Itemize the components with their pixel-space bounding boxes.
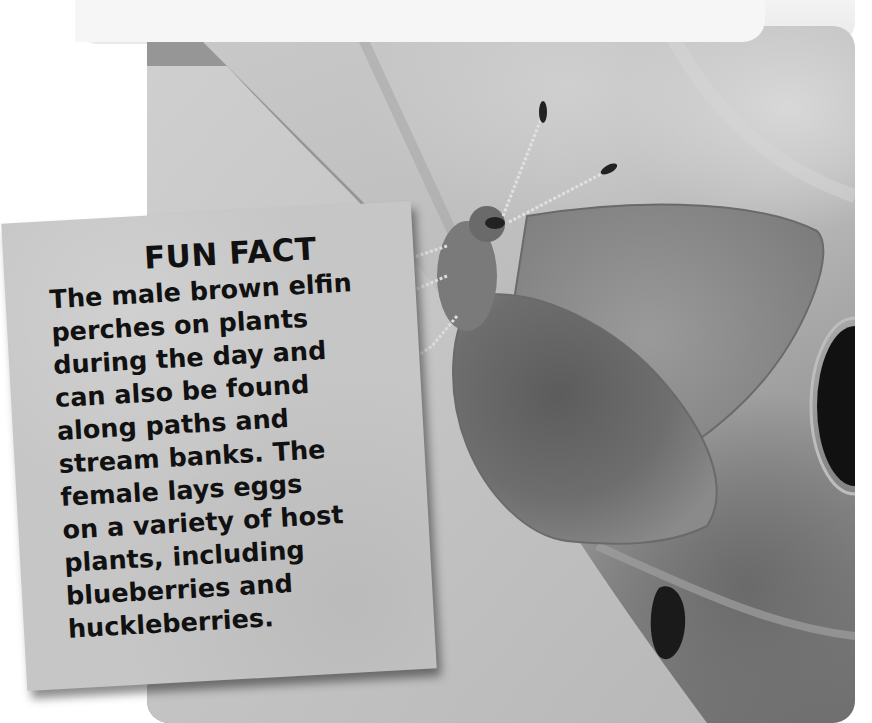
fun-fact-body: The male brown elfin perches on plants d…	[49, 264, 415, 646]
top-page-band	[75, 0, 765, 42]
fun-fact-card: FUN FACT The male brown elfin perches on…	[1, 201, 436, 691]
